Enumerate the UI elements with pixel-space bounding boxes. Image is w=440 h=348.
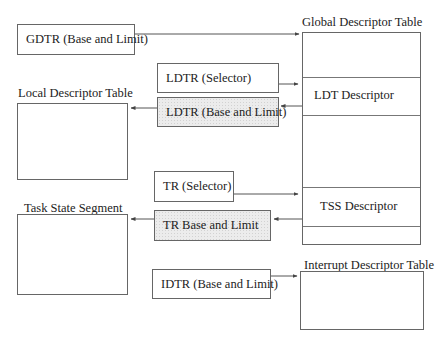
gdt-row-divider — [303, 226, 420, 227]
gdtr-label: GDTR (Base and Limit) — [26, 32, 148, 47]
interrupt-descriptor-table — [300, 271, 424, 330]
gdtr-register: GDTR (Base and Limit) — [17, 24, 135, 55]
tr-selector-register: TR (Selector) — [154, 171, 234, 202]
ldtr-base-label: LDTR (Base and Limit) — [166, 105, 286, 120]
ldtr-selector-label: LDTR (Selector) — [166, 71, 251, 86]
local-descriptor-table — [17, 103, 128, 180]
tr-base-label: TR Base and Limit — [163, 218, 258, 233]
gdt-entry-ldt-descriptor: LDT Descriptor — [314, 88, 394, 103]
idtr-register: IDTR (Base and Limit) — [152, 269, 271, 299]
task-state-segment — [17, 214, 128, 295]
ldt-title: Local Descriptor Table — [18, 86, 133, 101]
gdt-row-divider — [303, 187, 420, 188]
gdt-row-divider — [303, 77, 420, 78]
tr-base-register: TR Base and Limit — [154, 210, 271, 241]
gdt-title: Global Descriptor Table — [302, 15, 422, 30]
ldtr-selector-register: LDTR (Selector) — [157, 63, 279, 93]
tr-selector-label: TR (Selector) — [163, 179, 231, 194]
global-descriptor-table: LDT Descriptor TSS Descriptor — [302, 32, 421, 245]
ldtr-base-register: LDTR (Base and Limit) — [157, 97, 279, 127]
idtr-label: IDTR (Base and Limit) — [161, 277, 278, 292]
gdt-row-divider — [303, 115, 420, 116]
gdt-entry-tss-descriptor: TSS Descriptor — [320, 199, 397, 214]
